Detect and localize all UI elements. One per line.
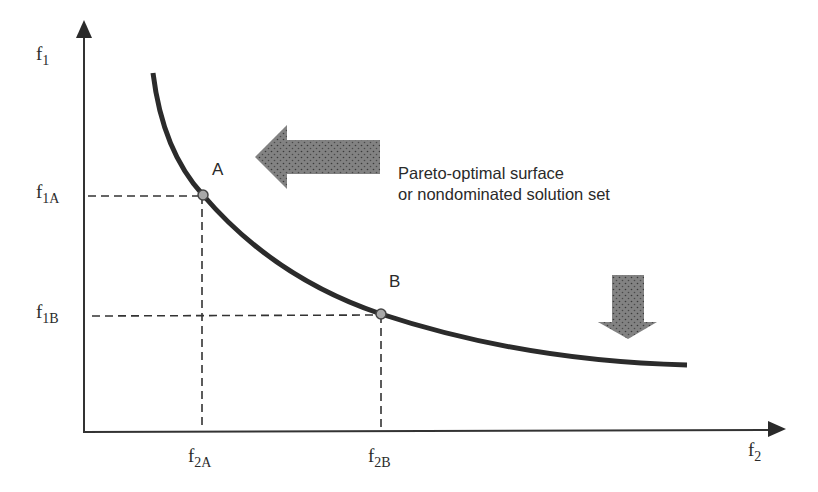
pareto-diagram: f1 f2 A B f1A f1B f2A f2B Pareto-optimal… bbox=[0, 0, 818, 492]
point-b-label: B bbox=[389, 272, 400, 291]
x-axis-arrowhead-icon bbox=[768, 421, 786, 437]
y-axis bbox=[76, 20, 92, 433]
point-a-label: A bbox=[212, 160, 224, 179]
point-a-marker bbox=[198, 190, 208, 200]
tick-f1a: f1A bbox=[36, 181, 60, 206]
point-b-marker bbox=[376, 309, 386, 319]
x-axis-label: f2 bbox=[748, 439, 761, 464]
tick-f1b: f1B bbox=[36, 301, 59, 326]
tick-f2a: f2A bbox=[188, 445, 212, 470]
pareto-curve bbox=[153, 73, 687, 365]
annotation-line-1: Pareto-optimal surface bbox=[398, 164, 564, 182]
down-arrow-icon bbox=[598, 275, 657, 339]
tick-f2b: f2B bbox=[368, 445, 391, 470]
annotation-line-2: or nondominated solution set bbox=[398, 185, 610, 203]
x-axis bbox=[83, 421, 786, 437]
y-axis-arrowhead-icon bbox=[76, 20, 92, 38]
y-axis-label: f1 bbox=[36, 43, 49, 68]
guide-f1b bbox=[92, 315, 380, 316]
left-arrow-icon bbox=[255, 125, 380, 189]
